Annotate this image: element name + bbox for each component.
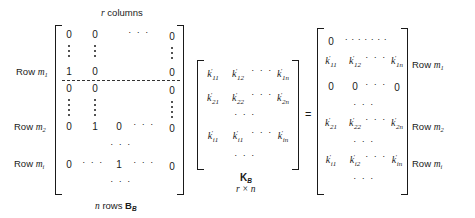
row-var: mi (36, 159, 45, 169)
k-element: k′i1 (233, 130, 243, 144)
cell: 0 (169, 86, 175, 96)
var: m (434, 159, 441, 169)
ellipsis: · · · (110, 140, 132, 149)
ellipsis: · · · (251, 66, 273, 75)
vertical-ellipsis (94, 45, 96, 60)
ellipsis: · · · (133, 120, 155, 129)
k-element: k′2n (391, 117, 403, 131)
cell: 0 (92, 67, 98, 77)
left-matrix-bottom-label: n rows BB (95, 201, 137, 213)
ellipsis: · · · (353, 137, 375, 146)
k-element: k′in (392, 154, 402, 168)
cell: 0 (169, 162, 175, 172)
symbol: B (125, 200, 132, 211)
cell: 0 (92, 84, 98, 94)
ellipsis: · · · (82, 158, 104, 167)
equals-sign: = (305, 109, 311, 120)
ellipsis: · · · (353, 100, 375, 109)
cell: 0 (328, 37, 334, 47)
k-element: k′12 (232, 68, 244, 82)
row-var: m2 (36, 122, 46, 132)
partition-line (62, 80, 180, 81)
sub: 1n (396, 61, 403, 69)
k-element: k′in (278, 130, 288, 144)
sub: 22 (354, 123, 361, 131)
vertical-ellipsis (94, 99, 96, 119)
symbol-sub: B (247, 177, 252, 184)
ellipsis: · · · (133, 158, 155, 167)
row-label-m2-right: Row m2 (412, 122, 444, 134)
right-matrix-right-bracket (401, 28, 408, 195)
cell: 0 (66, 122, 72, 132)
row-var: m1 (434, 60, 444, 70)
cell: 1 (66, 67, 72, 77)
row-var: mi (434, 159, 443, 169)
var: m (36, 122, 43, 132)
left-matrix-right-bracket (177, 25, 184, 195)
sub: i2 (355, 160, 360, 168)
sub: 12 (354, 61, 361, 69)
ellipsis: · · · (365, 80, 387, 89)
left-matrix-left-bracket (55, 25, 62, 195)
sub: 1n (282, 74, 289, 82)
sub: 2n (396, 123, 403, 131)
ellipsis: · · · (110, 177, 132, 186)
row-var: m2 (434, 122, 444, 132)
cell: 0 (169, 32, 175, 42)
k-element: k′12 (349, 55, 361, 69)
sub: 11 (212, 74, 218, 82)
sub: 21 (212, 98, 219, 106)
sub: 1 (45, 71, 48, 78)
label-text: columns (105, 7, 143, 18)
row-label-mi: Row mi (14, 159, 44, 171)
ellipsis: · · · (128, 28, 150, 37)
k-element: k′22 (349, 117, 361, 131)
cell: 1 (92, 122, 98, 132)
sub: i (441, 163, 443, 170)
sub: 22 (237, 98, 244, 106)
k-element: k′11 (207, 68, 218, 82)
k-element: k′11 (325, 55, 336, 69)
cell: 0 (169, 68, 175, 78)
var: m (36, 159, 43, 169)
row-prefix: Row (412, 59, 434, 70)
cell: 1 (116, 160, 122, 170)
vertical-ellipsis (68, 99, 70, 119)
cell: 0 (66, 160, 72, 170)
ellipsis: · · · · · · · (345, 35, 387, 44)
k-element: k′1n (391, 55, 403, 69)
var: m (38, 67, 45, 77)
sub: i1 (238, 136, 243, 144)
left-matrix-top-label: r columns (101, 8, 143, 19)
label-text: rows (100, 200, 125, 211)
sub: i1 (331, 160, 336, 168)
row-prefix: Row (412, 121, 434, 132)
vertical-ellipsis (171, 101, 173, 121)
row-label-m1-right: Row m1 (412, 60, 444, 72)
k-element: k′22 (232, 92, 244, 106)
sub: 1 (441, 64, 444, 71)
sub: i1 (213, 136, 218, 144)
sub: 12 (237, 74, 244, 82)
cell: 0 (328, 82, 334, 92)
matrix-symbol-bb: BB (125, 200, 137, 211)
cell: 0 (394, 83, 400, 93)
k-element: k′2n (277, 92, 289, 106)
k-element: k′i1 (326, 154, 336, 168)
sub: in (397, 160, 402, 168)
ellipsis: · · · (353, 174, 375, 183)
ellipsis: · · · (234, 151, 256, 160)
cell: 0 (66, 30, 72, 40)
ellipsis: · · · (251, 90, 273, 99)
cell: 0 (116, 122, 122, 132)
sub: 11 (330, 61, 336, 69)
row-prefix: Row (14, 121, 36, 132)
k-element: k′21 (207, 92, 219, 106)
middle-matrix-left-bracket (197, 60, 204, 170)
middle-matrix-right-bracket (292, 60, 299, 170)
row-label-mi-right: Row mi (412, 159, 442, 171)
ellipsis: · · · (251, 128, 273, 137)
k-element: k′i2 (350, 154, 360, 168)
row-var: m1 (38, 67, 48, 77)
row-label-m2: Row m2 (14, 122, 46, 134)
